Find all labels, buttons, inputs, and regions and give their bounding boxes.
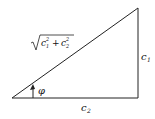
right-triangle [12, 8, 138, 98]
horizontal-side-label: c 2 [81, 102, 91, 114]
svg-text:1: 1 [147, 56, 151, 63]
vertical-side-label: c 1 [141, 51, 151, 63]
svg-text:2: 2 [86, 107, 91, 114]
svg-text:2: 2 [45, 36, 49, 42]
triangle-diagram: φ c 2 1 + c 2 2 c 1 c 2 [0, 0, 155, 119]
svg-text:+: + [52, 38, 60, 48]
svg-text:2: 2 [65, 36, 69, 42]
svg-text:2: 2 [65, 43, 69, 49]
angle-label: φ [38, 85, 45, 96]
svg-text:1: 1 [46, 43, 49, 49]
hypotenuse-label: c 2 1 + c 2 2 [31, 35, 74, 50]
